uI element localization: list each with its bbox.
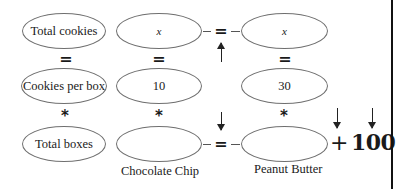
- plus-sign: +: [330, 132, 348, 154]
- equals-sign-choc-col: =: [149, 51, 169, 67]
- choc-cookies-per-box-value: 10: [153, 79, 166, 94]
- equals-sign-label-col: =: [56, 51, 76, 67]
- up-arrow-icon: [221, 43, 222, 62]
- pb-total-cookies-ellipse: x: [241, 13, 328, 49]
- pb-total-boxes-ellipse: [241, 126, 328, 162]
- multiply-sign-pb-col: *: [274, 109, 294, 124]
- equals-sign-row1: =: [211, 23, 231, 39]
- total-cookies-label: Total cookies: [31, 24, 98, 39]
- vertical-divider: [391, 0, 393, 189]
- choc-total-cookies-value: x: [157, 25, 162, 37]
- choc-total-cookies-ellipse: x: [116, 13, 202, 49]
- multiply-sign-label-col: *: [55, 109, 75, 124]
- pb-total-cookies-value: x: [282, 25, 287, 37]
- pb-cookies-per-box-value: 30: [278, 79, 291, 94]
- multiply-sign-choc-col: *: [149, 109, 169, 124]
- equals-sign-pb-col: =: [275, 51, 295, 67]
- down-arrow-icon: [337, 108, 338, 128]
- connector-dash: [203, 31, 211, 32]
- cookies-per-box-label-ellipse: Cookies per box: [21, 68, 107, 104]
- choc-cookies-per-box-ellipse: 10: [116, 68, 202, 104]
- down-arrow-icon: [221, 112, 222, 130]
- equals-sign-row3: =: [211, 136, 231, 152]
- addend-value: 100: [351, 131, 395, 153]
- total-boxes-label: Total boxes: [35, 137, 93, 152]
- cookies-per-box-label: Cookies per box: [23, 79, 105, 94]
- column-label-chocolate-chip: Chocolate Chip: [121, 164, 199, 179]
- connector-dash: [231, 144, 240, 145]
- pb-cookies-per-box-ellipse: 30: [241, 68, 328, 104]
- down-arrow-icon: [372, 108, 373, 128]
- connector-dash: [231, 31, 240, 32]
- total-cookies-label-ellipse: Total cookies: [22, 13, 106, 49]
- total-boxes-label-ellipse: Total boxes: [22, 126, 106, 162]
- column-label-peanut-butter: Peanut Butter: [254, 162, 322, 177]
- connector-dash: [203, 144, 211, 145]
- choc-total-boxes-ellipse: [116, 126, 202, 162]
